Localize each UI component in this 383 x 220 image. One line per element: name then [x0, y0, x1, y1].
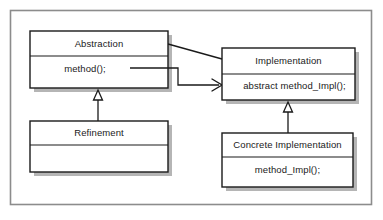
concrete-implementation-method-label: method_Impl(); — [222, 165, 353, 175]
implementation-method-label: abstract method_Impl(); — [228, 81, 361, 91]
abstraction-method-label: method(); — [16, 64, 154, 74]
abstraction-class-name: Abstraction — [30, 39, 168, 49]
diagram-canvas: Abstraction method(); Implementation abs… — [0, 0, 383, 220]
refinement-class-name: Refinement — [30, 128, 168, 138]
uml-diagram — [0, 0, 383, 220]
concrete-implementation-class-name: Concrete Implementation — [222, 140, 353, 150]
implementation-class-name: Implementation — [222, 56, 355, 66]
